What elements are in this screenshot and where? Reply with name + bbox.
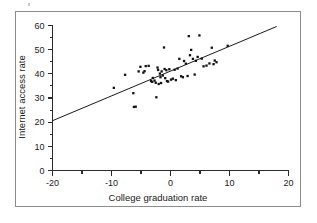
data-point <box>137 70 139 72</box>
figure-root: -20-10010200102030405060 College graduat… <box>0 0 317 223</box>
y-axis-title: Internet access rate <box>16 55 27 138</box>
ticks-group <box>48 26 289 176</box>
x-tick-label: -20 <box>46 178 59 188</box>
axes-group <box>53 26 289 171</box>
scatter-plot: -20-10010200102030405060 College graduat… <box>0 0 317 223</box>
data-point <box>192 58 194 60</box>
data-point <box>152 77 154 79</box>
data-point <box>164 77 166 79</box>
data-point <box>160 82 162 84</box>
data-point <box>188 35 190 37</box>
data-point <box>196 56 198 58</box>
y-tick-label: 60 <box>34 21 44 31</box>
data-point <box>159 72 161 74</box>
data-point <box>168 68 170 70</box>
data-point <box>151 81 153 83</box>
data-point <box>186 75 188 77</box>
data-point <box>176 67 178 69</box>
data-point <box>202 65 204 67</box>
data-point <box>178 58 180 60</box>
data-point <box>156 66 158 68</box>
data-point <box>182 76 184 78</box>
data-point <box>163 46 165 48</box>
data-point <box>162 74 164 76</box>
y-tick-label: 50 <box>34 45 44 55</box>
data-point <box>194 73 196 75</box>
data-point <box>175 79 177 81</box>
x-axis-title: College graduation rate <box>109 192 208 203</box>
data-point <box>165 69 167 71</box>
data-point <box>139 66 141 68</box>
y-tick-label: 40 <box>34 69 44 79</box>
tick-labels-group: -20-10010200102030405060 <box>34 21 293 188</box>
data-point <box>185 63 187 65</box>
y-tick-label: 0 <box>39 166 44 176</box>
data-point <box>148 65 150 67</box>
data-point <box>189 54 191 56</box>
data-point <box>143 70 145 72</box>
data-point <box>153 79 155 81</box>
data-point <box>124 74 126 76</box>
data-point <box>198 34 200 36</box>
fit-line <box>53 26 277 120</box>
y-tick-label: 30 <box>34 93 44 103</box>
data-point <box>227 45 229 47</box>
data-point <box>208 62 210 64</box>
data-point <box>132 92 134 94</box>
data-point <box>158 83 160 85</box>
data-point <box>201 57 203 59</box>
y-tick-label: 20 <box>34 117 44 127</box>
x-tick-label: -10 <box>105 178 118 188</box>
y-tick-label: 10 <box>34 142 44 152</box>
data-point <box>167 80 169 82</box>
data-point <box>183 60 185 62</box>
data-point <box>155 82 157 84</box>
data-point <box>190 49 192 51</box>
data-point <box>215 61 217 63</box>
data-point <box>145 65 147 67</box>
x-tick-label: 0 <box>168 178 173 188</box>
data-point <box>211 47 213 49</box>
data-point <box>195 60 197 62</box>
data-point <box>212 63 214 65</box>
data-point <box>173 69 175 71</box>
x-tick-label: 10 <box>224 178 234 188</box>
data-point <box>205 64 207 66</box>
data-point <box>135 106 137 108</box>
regression-line <box>53 26 277 120</box>
axis-spines <box>53 26 289 171</box>
data-point <box>113 87 115 89</box>
scan-speck <box>28 3 30 6</box>
data-point <box>161 70 163 72</box>
data-point <box>155 96 157 98</box>
data-point <box>157 69 159 71</box>
x-tick-label: 20 <box>283 178 293 188</box>
data-point <box>159 76 161 78</box>
data-point <box>172 78 174 80</box>
